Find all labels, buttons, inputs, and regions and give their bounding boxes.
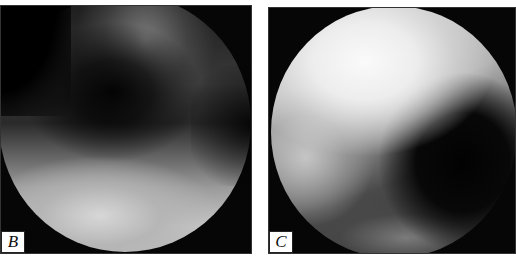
panel-label-c: C [269,231,293,253]
image-panel-c: C [268,7,516,254]
shadow-region [191,66,251,186]
panel-label-b: B [1,231,25,253]
shadow-region [1,6,71,116]
image-panel-b: B [0,5,252,254]
micrograph-disc-c [271,7,516,254]
